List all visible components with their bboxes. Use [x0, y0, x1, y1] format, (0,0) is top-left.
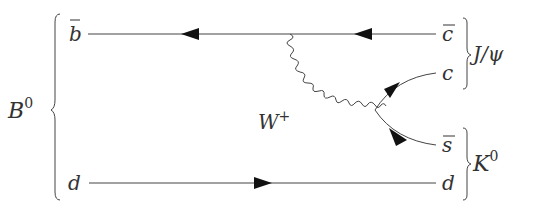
- arrow-top-right: [354, 28, 372, 40]
- c-line: [375, 73, 436, 110]
- label-s-bar: s: [442, 133, 452, 157]
- label-c: c: [442, 61, 453, 85]
- label-w-plus: W+: [258, 108, 290, 134]
- jpsi-brace: [463, 18, 471, 89]
- k0-brace: [463, 128, 471, 200]
- label-b-bar: b: [69, 22, 82, 46]
- arrow-top-left: [181, 28, 199, 40]
- b0-brace: [51, 14, 60, 200]
- arrow-s-bar: [389, 128, 407, 146]
- label-k0: K0: [472, 148, 498, 176]
- label-b0: B0: [7, 95, 33, 123]
- label-jpsi: J/ψ: [469, 42, 504, 66]
- label-d-right: d: [442, 171, 455, 195]
- feynman-diagram: B0 b d W+ c c s d J/ψ K0: [0, 0, 541, 213]
- w-boson-line: [287, 34, 386, 108]
- label-c-bar: c: [442, 22, 453, 46]
- arrow-bottom: [254, 177, 272, 189]
- label-d-left: d: [68, 171, 81, 195]
- diagram-canvas: B0 b d W+ c c s d J/ψ K0: [0, 0, 541, 213]
